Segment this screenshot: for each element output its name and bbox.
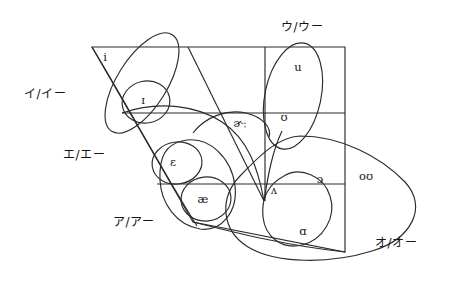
vowel-symbol-u: u: [294, 60, 301, 74]
vowel-symbol-eh: ɛ: [170, 155, 176, 169]
i-to-ae-diagonal: [92, 47, 197, 226]
vowel-chart-figure: i ɪ ɛ æ u ʊ ɚː ʌ ɔ oʊ ɑ イ/イー ウ/ウー エ/エー ア…: [0, 0, 464, 284]
kana-label-i: イ/イー: [24, 87, 66, 101]
vowel-symbol-wedge: ʌ: [270, 184, 277, 196]
eh-group-ellipse: [149, 139, 204, 188]
group-loop-i: [91, 21, 194, 144]
kana-group-labels: イ/イー ウ/ウー エ/エー ア/アー オ/オー: [24, 20, 417, 250]
kana-label-o: オ/オー: [375, 236, 417, 250]
ih-small-ellipse: [118, 76, 174, 127]
group-loop-e: [149, 139, 204, 188]
kana-label-u: ウ/ウー: [281, 20, 323, 34]
wedge-sweep-curve: [122, 106, 282, 201]
er-curve-flourish: [193, 112, 270, 137]
vowel-symbol-open-o: ɔ: [317, 172, 323, 186]
vowel-symbol-uh: ʊ: [280, 110, 287, 124]
i-group-ellipse: [91, 21, 194, 144]
vowel-symbol-ou: oʊ: [359, 169, 373, 183]
vowel-symbol-ae: æ: [198, 192, 209, 206]
vowel-symbol-er: ɚː: [233, 116, 247, 130]
kana-label-a: ア/アー: [113, 215, 154, 229]
ipa-symbol-labels: i ɪ ɛ æ u ʊ ɚː ʌ ɔ oʊ ɑ: [103, 50, 373, 238]
vowel-symbol-i: i: [103, 50, 107, 64]
er-loop-curve: [193, 112, 270, 137]
vowel-chart-canvas: i ɪ ɛ æ u ʊ ɚː ʌ ɔ oʊ ɑ イ/イー ウ/ウー エ/エー ア…: [0, 0, 464, 284]
vowel-symbol-script-a: ɑ: [299, 224, 307, 238]
vowel-symbol-ih: ɪ: [141, 93, 145, 107]
kana-label-e: エ/エー: [63, 148, 105, 162]
